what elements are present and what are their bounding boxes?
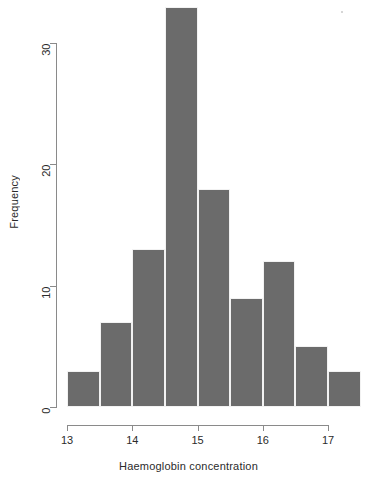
plot-area: [67, 0, 361, 407]
x-axis-tick-label: 15: [191, 435, 203, 446]
histogram-bar: [67, 371, 100, 407]
y-axis-tick-label: 30: [41, 44, 52, 56]
scan-speck: [341, 11, 343, 13]
x-axis-tick: [263, 425, 264, 431]
x-axis-tick: [67, 425, 68, 431]
x-axis-tick-label: 14: [126, 435, 138, 446]
histogram-bar: [230, 298, 263, 407]
y-axis-line: [56, 43, 57, 408]
x-axis-tick: [132, 425, 133, 431]
x-axis-tick-label: 16: [257, 435, 269, 446]
x-axis-tick-label: 13: [61, 435, 73, 446]
histogram-bar: [165, 7, 198, 407]
histogram-figure: 0102030 Frequency 1314151617 Haemoglobin…: [0, 0, 377, 481]
y-axis-tick-label: 20: [41, 165, 52, 177]
y-axis-tick-label: 0: [41, 408, 52, 414]
x-axis-tick-label: 17: [322, 435, 334, 446]
y-axis-title: Frequency: [8, 175, 20, 229]
histogram-bar: [198, 189, 231, 407]
x-axis-tick: [198, 425, 199, 431]
histogram-bar: [132, 249, 165, 407]
histogram-bar: [295, 346, 328, 407]
x-axis-title: Haemoglobin concentration: [0, 460, 377, 472]
x-axis-tick: [328, 425, 329, 431]
histogram-bar: [328, 371, 361, 407]
y-axis-tick-label: 10: [41, 286, 52, 298]
histogram-bar: [263, 261, 296, 407]
histogram-bar: [100, 322, 133, 407]
